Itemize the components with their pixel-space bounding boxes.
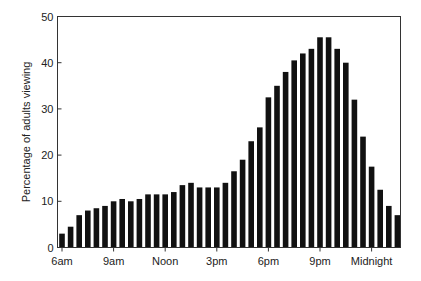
bar <box>240 160 246 248</box>
y-tick-label: 30 <box>41 103 53 115</box>
bar <box>369 167 375 248</box>
bar <box>85 211 91 248</box>
bar <box>162 194 168 247</box>
bar <box>309 49 315 248</box>
bar <box>248 141 254 247</box>
y-axis-title: Percentage of adults viewing <box>20 62 32 203</box>
y-tick-label: 20 <box>41 149 53 161</box>
y-tick-label: 0 <box>47 242 53 254</box>
x-tick-label: 3pm <box>206 255 227 267</box>
y-tick-label: 40 <box>41 57 53 69</box>
bar <box>266 97 272 247</box>
bar <box>76 215 82 247</box>
bar <box>352 100 358 248</box>
bar <box>137 199 143 248</box>
bar <box>377 190 383 248</box>
bar <box>205 187 211 247</box>
bar <box>68 227 74 248</box>
bar <box>188 183 194 248</box>
bar <box>343 63 349 248</box>
bar <box>300 53 306 247</box>
x-tick-label: 6am <box>51 255 72 267</box>
y-axis: 01020304050 <box>41 11 61 254</box>
bar <box>386 206 392 248</box>
bar <box>317 37 323 247</box>
bar-series <box>59 37 400 247</box>
x-tick-label: 6pm <box>258 255 279 267</box>
bar <box>360 137 366 248</box>
bar <box>334 49 340 248</box>
x-tick-label: 9pm <box>309 255 330 267</box>
bar <box>223 183 229 248</box>
bar <box>180 185 186 247</box>
bar <box>145 194 151 247</box>
bar <box>257 127 263 247</box>
bar <box>231 171 237 247</box>
plot-frame <box>58 17 401 248</box>
bar <box>395 215 401 247</box>
x-tick-label: 9am <box>103 255 124 267</box>
bar <box>274 86 280 248</box>
bar <box>111 201 117 247</box>
bar <box>197 187 203 247</box>
bar <box>154 194 160 247</box>
bar <box>214 187 220 247</box>
tv-viewing-bar-chart: 01020304050 6am9amNoon3pm6pm9pmMidnight … <box>0 0 421 281</box>
x-tick-label: Midnight <box>351 255 393 267</box>
bar <box>128 201 134 247</box>
bar <box>171 192 177 247</box>
bar <box>119 199 125 248</box>
bar <box>283 72 289 248</box>
bar <box>102 206 108 248</box>
bar <box>59 234 65 248</box>
x-tick-label: Noon <box>152 255 178 267</box>
bar <box>326 37 332 247</box>
x-axis: 6am9amNoon3pm6pm9pmMidnight <box>51 248 392 267</box>
bar <box>94 208 100 247</box>
bar <box>291 60 297 247</box>
y-tick-label: 10 <box>41 195 53 207</box>
y-tick-label: 50 <box>41 11 53 23</box>
